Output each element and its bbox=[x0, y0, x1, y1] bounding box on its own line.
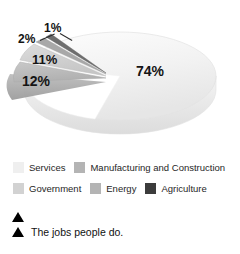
legend-label-services: Services bbox=[29, 163, 65, 173]
pie-chart: 74% 12% 11% 2% 1% bbox=[0, 0, 240, 150]
slice-label-agriculture: 1% bbox=[44, 22, 61, 34]
slice-label-government: 12% bbox=[22, 74, 50, 88]
legend-item-services: Services bbox=[13, 162, 65, 173]
slice-label-services: 74% bbox=[136, 64, 164, 78]
legend-row-1: Services Manufacturing and Construction bbox=[0, 157, 240, 178]
chart-legend: Services Manufacturing and Construction … bbox=[0, 157, 240, 199]
legend-row-2: Government Energy Agriculture bbox=[0, 178, 240, 199]
triangle-up-icon bbox=[12, 227, 24, 237]
legend-swatch-services bbox=[13, 162, 24, 173]
legend-swatch-manufacturing bbox=[74, 162, 85, 173]
legend-item-energy: Energy bbox=[90, 183, 136, 194]
legend-item-agriculture: Agriculture bbox=[145, 183, 206, 194]
slice-label-manufacturing: 11% bbox=[32, 53, 57, 66]
legend-label-energy: Energy bbox=[106, 184, 136, 194]
legend-swatch-agriculture bbox=[145, 183, 156, 194]
caption-line: The jobs people do. bbox=[12, 226, 123, 237]
caption-text: The jobs people do. bbox=[31, 227, 123, 238]
legend-label-government: Government bbox=[29, 184, 81, 194]
legend-label-agriculture: Agriculture bbox=[161, 184, 206, 194]
legend-item-government: Government bbox=[13, 183, 81, 194]
legend-label-manufacturing: Manufacturing and Construction bbox=[90, 163, 225, 173]
triangle-up-icon bbox=[12, 212, 24, 222]
slice-label-energy: 2% bbox=[18, 33, 35, 45]
legend-item-manufacturing: Manufacturing and Construction bbox=[74, 162, 225, 173]
legend-swatch-government bbox=[13, 183, 24, 194]
legend-swatch-energy bbox=[90, 183, 101, 194]
